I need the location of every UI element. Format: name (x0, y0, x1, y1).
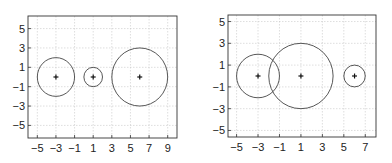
y-tick-label: 1 (219, 59, 225, 71)
x-tick-label: 1 (90, 142, 96, 154)
y-tick-label: 1 (19, 61, 25, 73)
y-tick-label: −3 (12, 100, 25, 112)
right-plot-panel: −5−3−11357531−1−3−5 (212, 15, 376, 153)
x-tick-label: −5 (230, 141, 243, 153)
x-tick-label: 7 (146, 142, 152, 154)
y-tick-label: −5 (212, 124, 225, 136)
x-tick-label: 5 (341, 141, 347, 153)
x-tick-label: 1 (298, 141, 304, 153)
x-tick-label: 9 (165, 142, 171, 154)
y-tick-label: −3 (212, 103, 225, 115)
y-tick-label: 5 (219, 16, 225, 28)
y-tick-label: 3 (219, 37, 225, 49)
y-tick-label: −1 (12, 81, 25, 93)
x-tick-label: −5 (31, 142, 44, 154)
x-tick-label: 7 (362, 141, 368, 153)
left-plot-panel: −5−3−113579531−1−3−5 (12, 16, 177, 154)
y-tick-label: −1 (212, 81, 225, 93)
x-tick-label: 5 (127, 142, 133, 154)
x-tick-label: 3 (109, 142, 115, 154)
chart-canvas: −5−3−113579531−1−3−5 −5−3−11357531−1−3−5 (0, 0, 392, 163)
x-tick-label: −3 (252, 141, 265, 153)
x-tick-label: −1 (68, 142, 81, 154)
y-tick-label: 5 (19, 23, 25, 35)
x-tick-label: −1 (273, 141, 286, 153)
y-tick-label: −5 (12, 119, 25, 131)
x-tick-label: −3 (50, 142, 63, 154)
x-tick-label: 3 (319, 141, 325, 153)
y-tick-label: 3 (19, 42, 25, 54)
